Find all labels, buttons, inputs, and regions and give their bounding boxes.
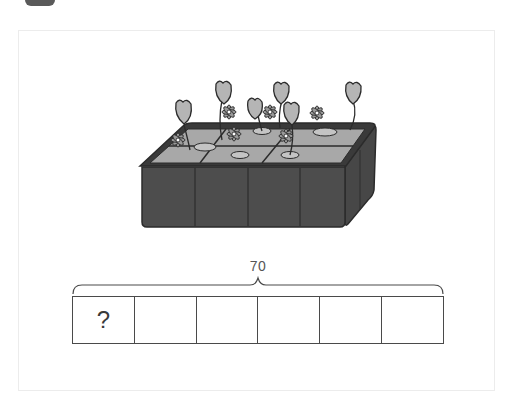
bar-cell: [197, 297, 259, 343]
total-label: 70: [238, 258, 278, 274]
corner-tab: [25, 0, 55, 6]
bar-cell: [258, 297, 320, 343]
bar-model: ?: [72, 296, 444, 344]
bar-cell: [320, 297, 382, 343]
bar-cell: [135, 297, 197, 343]
bar-cell: [382, 297, 443, 343]
bar-cell-unknown: ?: [73, 297, 135, 343]
